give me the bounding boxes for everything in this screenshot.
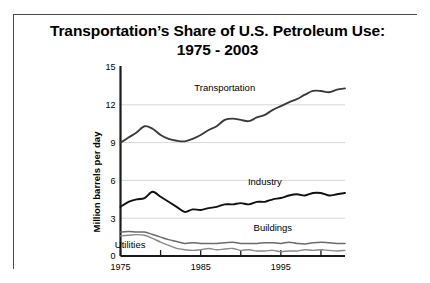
gridlines	[121, 105, 346, 218]
x-tick-label: 1985	[191, 262, 211, 272]
chart-figure: Transportation’s Share of U.S. Petroleum…	[0, 0, 430, 283]
y-axis-title-text: Million barrels per day	[91, 131, 102, 233]
series-inline-labels: TransportationIndustryBuildingsUtilities	[115, 82, 293, 250]
y-tick-label: 0	[110, 251, 115, 261]
series-label-transportation: Transportation	[194, 82, 255, 93]
x-tick-label: 1975	[110, 262, 130, 272]
series-lines	[121, 88, 346, 251]
x-axis-tick-labels: 197519851995	[110, 262, 290, 272]
y-tick-label: 15	[105, 62, 115, 72]
y-tick-label: 3	[110, 214, 115, 224]
y-axis-title: Million barrels per day	[91, 131, 102, 233]
y-tick-label: 12	[105, 100, 115, 110]
line-chart-svg: 03691215 197519851995 TransportationIndu…	[0, 0, 430, 283]
series-label-buildings: Buildings	[254, 222, 293, 233]
y-tick-label: 6	[110, 176, 115, 186]
series-line-transportation	[121, 88, 346, 142]
x-tick-label: 1995	[271, 262, 291, 272]
series-line-industry	[121, 192, 346, 212]
y-axis-tick-labels: 03691215	[105, 62, 115, 261]
series-label-utilities: Utilities	[115, 239, 146, 250]
series-line-buildings	[121, 231, 346, 244]
series-label-industry: Industry	[248, 176, 282, 187]
y-tick-label: 9	[110, 138, 115, 148]
plot-area: 03691215 197519851995 TransportationIndu…	[0, 0, 430, 283]
